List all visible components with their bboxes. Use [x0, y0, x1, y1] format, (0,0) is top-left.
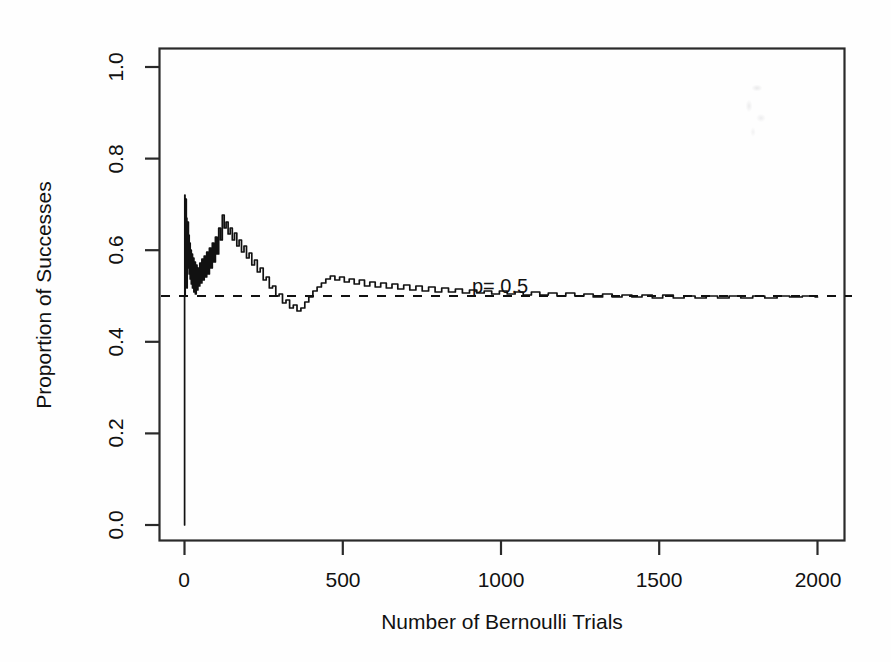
y-tick-label-0-8: 0.8: [104, 144, 128, 173]
y-tick-label-0-2: 0.2: [104, 418, 128, 447]
proportion-series-line: [185, 195, 818, 525]
y-tick-label-0-0: 0.0: [104, 510, 128, 539]
plot-canvas: [0, 0, 891, 662]
y-axis-ticks: [145, 67, 159, 525]
y-tick-label-1-0: 1.0: [104, 52, 128, 81]
x-axis-ticks: [185, 541, 818, 555]
x-tick-label-500: 500: [325, 568, 360, 592]
x-axis-title: Number of Bernoulli Trials: [381, 610, 623, 634]
y-axis-title: Proportion of Successes: [32, 181, 56, 409]
y-tick-label-0-4: 0.4: [104, 327, 128, 356]
x-tick-label-1000: 1000: [478, 568, 525, 592]
x-tick-label-0: 0: [178, 568, 190, 592]
y-tick-label-0-6: 0.6: [104, 235, 128, 264]
p-value-annotation: p= 0.5: [472, 275, 528, 298]
x-tick-label-1500: 1500: [636, 568, 683, 592]
x-tick-label-2000: 2000: [795, 568, 842, 592]
bernoulli-trials-convergence-chart: 0 500 1000 1500 2000 0.0 0.2 0.4 0.6 0.8…: [0, 0, 891, 662]
